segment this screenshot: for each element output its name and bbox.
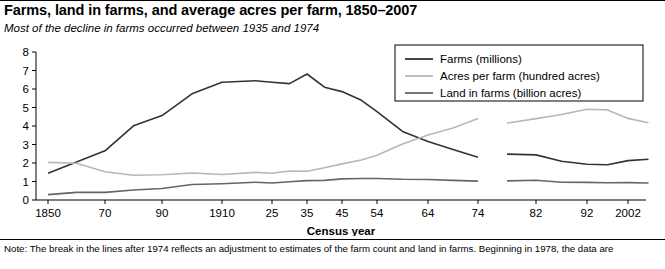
svg-text:1: 1 bbox=[23, 176, 29, 188]
legend-label-1: Acres per farm (hundred acres) bbox=[440, 70, 600, 82]
svg-text:1850: 1850 bbox=[35, 207, 61, 219]
y-axis-ticks: 012345678 bbox=[23, 46, 36, 206]
chart-plot-area: 0123456781850709019102535455464748292200… bbox=[0, 40, 665, 236]
svg-text:90: 90 bbox=[156, 207, 169, 219]
svg-text:70: 70 bbox=[99, 207, 112, 219]
svg-text:5: 5 bbox=[23, 102, 29, 114]
svg-text:8: 8 bbox=[23, 46, 29, 58]
svg-text:45: 45 bbox=[336, 207, 349, 219]
series-2 bbox=[48, 179, 649, 195]
svg-text:82: 82 bbox=[530, 207, 543, 219]
svg-text:2002: 2002 bbox=[615, 207, 641, 219]
legend-label-2: Land in farms (billion acres) bbox=[440, 87, 581, 99]
x-axis-ticks: 18507090191025354554647482922002 bbox=[35, 200, 641, 219]
x-axis-label: Census year bbox=[307, 225, 376, 236]
svg-text:3: 3 bbox=[23, 139, 29, 151]
svg-text:35: 35 bbox=[301, 207, 314, 219]
top-rule bbox=[0, 0, 665, 1]
svg-text:7: 7 bbox=[23, 65, 29, 77]
bottom-rule bbox=[0, 239, 665, 240]
svg-text:4: 4 bbox=[23, 120, 30, 132]
svg-text:92: 92 bbox=[581, 207, 594, 219]
legend-label-0: Farms (millions) bbox=[440, 53, 522, 65]
chart-subtitle: Most of the decline in farms occurred be… bbox=[4, 22, 319, 34]
svg-text:25: 25 bbox=[266, 207, 279, 219]
page-title: Farms, land in farms, and average acres … bbox=[4, 2, 417, 18]
svg-text:74: 74 bbox=[472, 207, 485, 219]
chart-note: Note: The break in the lines after 1974 … bbox=[4, 243, 661, 255]
series-1 bbox=[48, 109, 649, 175]
svg-text:6: 6 bbox=[23, 83, 29, 95]
line-chart: 0123456781850709019102535455464748292200… bbox=[0, 40, 665, 236]
svg-text:2: 2 bbox=[23, 157, 29, 169]
svg-text:64: 64 bbox=[422, 207, 435, 219]
svg-text:1910: 1910 bbox=[209, 207, 235, 219]
svg-text:54: 54 bbox=[371, 207, 384, 219]
legend: Farms (millions)Acres per farm (hundred … bbox=[395, 45, 643, 101]
svg-text:0: 0 bbox=[23, 194, 29, 206]
